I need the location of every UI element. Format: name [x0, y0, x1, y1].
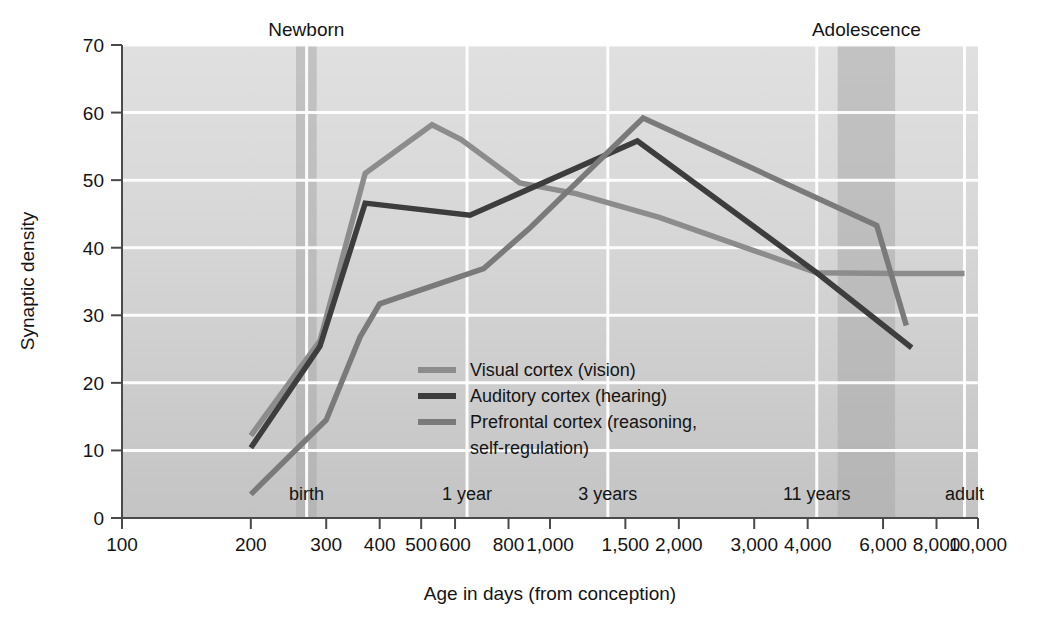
stage-label-1-year: 1 year — [442, 484, 492, 504]
y-tick-label-10: 10 — [83, 440, 104, 461]
y-tick-label-40: 40 — [83, 238, 104, 259]
x-tick-label-1500: 1,500 — [602, 534, 650, 555]
x-tick-label-500: 500 — [405, 534, 437, 555]
x-tick-label-800: 800 — [493, 534, 525, 555]
synaptic-density-figure: 010203040506070 1002003004005006008001,0… — [0, 0, 1050, 623]
legend-label-1: Auditory cortex (hearing) — [470, 386, 667, 406]
x-tick-label-3000: 3,000 — [730, 534, 778, 555]
x-tick-label-2000: 2,000 — [655, 534, 703, 555]
x-tick-label-1000: 1,000 — [526, 534, 574, 555]
x-tick-label-4000: 4,000 — [784, 534, 832, 555]
x-axis-title: Age in days (from conception) — [424, 583, 676, 604]
x-tick-label-6000: 6,000 — [859, 534, 907, 555]
x-tick-label-200: 200 — [235, 534, 267, 555]
y-tick-label-50: 50 — [83, 170, 104, 191]
band-label-newborn: Newborn — [268, 19, 344, 40]
y-tick-label-60: 60 — [83, 103, 104, 124]
legend-label-0: Visual cortex (vision) — [470, 360, 636, 380]
y-tick-label-20: 20 — [83, 373, 104, 394]
stage-label-adult: adult — [945, 484, 984, 504]
x-tick-label-400: 400 — [364, 534, 396, 555]
y-tick-label-0: 0 — [93, 508, 104, 529]
x-tick-label-100: 100 — [106, 534, 138, 555]
x-tick-label-600: 600 — [439, 534, 471, 555]
chart-canvas: 010203040506070 1002003004005006008001,0… — [0, 0, 1050, 623]
x-tick-label-10000: 10,000 — [949, 534, 1007, 555]
y-tick-label-70: 70 — [83, 35, 104, 56]
stage-label-3-years: 3 years — [578, 484, 637, 504]
y-axis-title: Synaptic density — [17, 211, 38, 350]
x-tick-label-300: 300 — [310, 534, 342, 555]
band-label-adolescence: Adolescence — [812, 19, 921, 40]
y-tick-label-30: 30 — [83, 305, 104, 326]
stage-label-11-years: 11 years — [783, 484, 851, 504]
legend-label-2: Prefrontal cortex (reasoning, — [470, 412, 697, 432]
legend-label-3: self-regulation) — [470, 438, 589, 458]
stage-label-birth: birth — [289, 484, 324, 504]
era-band-adolescence — [838, 45, 895, 518]
